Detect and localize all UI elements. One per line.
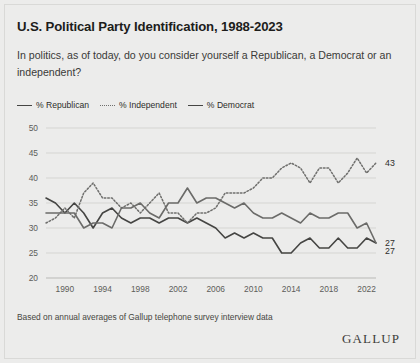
- y-tick-label-35: 35: [29, 198, 39, 208]
- legend-label-independent: % Independent: [119, 100, 177, 110]
- y-tick-label-30: 30: [29, 223, 39, 233]
- legend-item-democrat[interactable]: % Democrat: [188, 100, 254, 110]
- y-tick-label-45: 45: [29, 148, 39, 158]
- chart-plot-area: 20253035404550 1990199419982002200620102…: [0, 118, 420, 300]
- end-label-independent: 43: [385, 158, 395, 168]
- x-tick-label-1994: 1994: [93, 284, 112, 294]
- legend-item-republican[interactable]: % Republican: [17, 100, 89, 110]
- series-line-independent: [46, 158, 376, 223]
- chart-legend: % Republican % Independent % Democrat: [17, 100, 254, 110]
- legend-label-democrat: % Democrat: [207, 100, 254, 110]
- chart-subtitle: In politics, as of today, do you conside…: [17, 47, 402, 81]
- legend-swatch-independent-icon: [100, 105, 115, 106]
- y-tick-label-50: 50: [29, 123, 39, 133]
- y-tick-label-25: 25: [29, 248, 39, 258]
- end-label-democrat: 27: [385, 246, 395, 256]
- x-tick-label-2018: 2018: [320, 284, 339, 294]
- x-tick-label-2002: 2002: [169, 284, 188, 294]
- y-tick-label-20: 20: [29, 273, 39, 283]
- x-tick-label-2010: 2010: [244, 284, 263, 294]
- legend-item-independent[interactable]: % Independent: [100, 100, 177, 110]
- chart-footnote: Based on annual averages of Gallup telep…: [17, 312, 273, 322]
- chart-y-axis-ticks: 20253035404550: [29, 123, 39, 283]
- line-chart: 20253035404550 1990199419982002200620102…: [0, 118, 420, 300]
- chart-x-axis-ticks: 199019941998200220062010201420182022: [56, 284, 377, 294]
- legend-swatch-republican-icon: [17, 105, 32, 106]
- page-title: U.S. Political Party Identification, 198…: [17, 19, 283, 34]
- series-line-republican: [46, 198, 376, 253]
- x-tick-label-2006: 2006: [206, 284, 225, 294]
- x-tick-label-1990: 1990: [56, 284, 75, 294]
- y-tick-label-40: 40: [29, 173, 39, 183]
- x-tick-label-2014: 2014: [282, 284, 301, 294]
- x-tick-label-2022: 2022: [357, 284, 376, 294]
- x-tick-label-1998: 1998: [131, 284, 150, 294]
- chart-end-labels: 274327: [385, 158, 395, 256]
- series-line-democrat: [46, 188, 376, 243]
- chart-gridlines: [46, 128, 376, 278]
- chart-series-lines: [46, 158, 376, 253]
- legend-swatch-democrat-icon: [188, 105, 203, 106]
- gallup-logo: GALLUP: [342, 331, 400, 347]
- legend-label-republican: % Republican: [36, 100, 89, 110]
- gallup-chart-card: U.S. Political Party Identification, 198…: [0, 0, 420, 363]
